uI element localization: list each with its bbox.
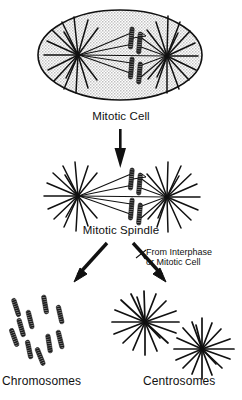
diagram-svg xyxy=(0,0,242,400)
label-mitotic-cell: Mitotic Cell xyxy=(0,110,242,123)
label-mitotic-spindle: Mitotic Spindle xyxy=(0,224,242,237)
centrosomes-group xyxy=(112,291,234,379)
centrosome-aster-b xyxy=(174,318,234,379)
label-source-line2: or Mitotic Cell xyxy=(146,257,212,267)
arrow-cell-to-spindle xyxy=(115,129,127,168)
chromosomes-group xyxy=(9,295,65,366)
label-source-line1: From Interphase xyxy=(146,247,212,257)
mitotic-cell-group xyxy=(38,10,202,100)
label-chromosomes: Chromosomes xyxy=(2,375,81,388)
arrow-spindle-to-chromosomes xyxy=(74,243,107,282)
mitotic-spindle-group xyxy=(44,162,200,232)
centrosome-aster-a xyxy=(112,291,179,355)
figure-canvas: Mitotic Cell Mitotic Spindle From Interp… xyxy=(0,0,242,400)
label-centrosomes: Centrosomes xyxy=(143,375,215,388)
label-source-annotation: From Interphase or Mitotic Cell xyxy=(146,247,212,267)
